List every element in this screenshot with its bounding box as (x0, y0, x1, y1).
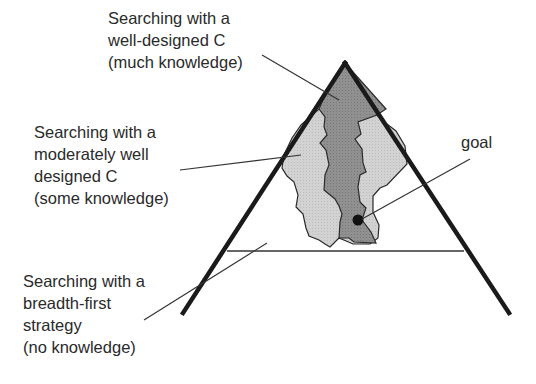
label-line: breadth-first (23, 292, 145, 314)
label-line: designed C (34, 165, 169, 187)
label-line: well-designed C (108, 29, 243, 51)
label-goal: goal (461, 131, 492, 153)
label-line: (some knowledge) (34, 187, 169, 209)
label-line: (no knowledge) (23, 336, 145, 358)
label-well-designed: Searching with a well-designed C (much k… (108, 7, 243, 73)
label-line: Searching with a (108, 7, 243, 29)
label-line: Searching with a (34, 121, 169, 143)
leader-line-well-designed (262, 55, 339, 100)
label-line: goal (461, 131, 492, 153)
label-moderately-designed: Searching with a moderately well designe… (34, 121, 169, 209)
label-breadth-first: Searching with a breadth-first strategy … (23, 270, 145, 358)
goal-node (353, 215, 364, 226)
label-line: Searching with a (23, 270, 145, 292)
label-line: strategy (23, 314, 145, 336)
label-line: (much knowledge) (108, 51, 243, 73)
leader-line-breadth-first (144, 243, 267, 320)
label-line: moderately well (34, 143, 169, 165)
